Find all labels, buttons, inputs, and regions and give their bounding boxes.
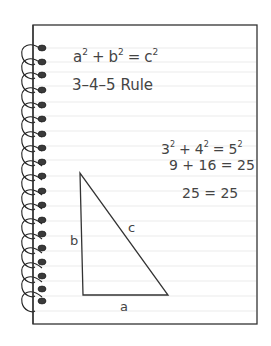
step-3: 25 = 25 xyxy=(182,185,238,201)
triangle-label-c: c xyxy=(128,220,135,235)
triangle-label-b: b xyxy=(70,233,78,248)
notebook-page: a2+b2=c2 3–4–5 Rule 32+42=52 9 + 16 = 25… xyxy=(0,0,271,346)
step-2: 9 + 16 = 25 xyxy=(169,157,255,173)
rule-name: 3–4–5 Rule xyxy=(72,76,153,94)
triangle-label-a: a xyxy=(120,299,128,314)
paper-sheet xyxy=(33,25,257,324)
